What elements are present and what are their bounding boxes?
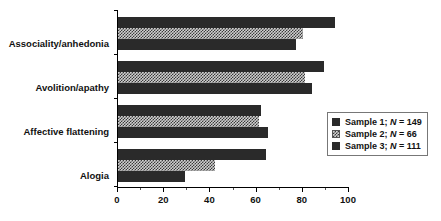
legend-item-2: Sample 3; N = 111 bbox=[332, 140, 422, 152]
x-axis-label-5: 100 bbox=[328, 194, 368, 205]
legend-swatch-series2 bbox=[332, 130, 340, 138]
y-axis-tick bbox=[114, 142, 118, 143]
x-axis-tick bbox=[209, 188, 210, 192]
x-axis-tick bbox=[256, 188, 257, 192]
x-axis-label-1: 20 bbox=[143, 194, 183, 205]
category-label-3: Alogia bbox=[0, 171, 109, 181]
bar-series1-cat2 bbox=[118, 105, 261, 116]
category-label-1: Avolition/apathy bbox=[0, 83, 109, 93]
category-label-2: Affective flattening bbox=[0, 127, 109, 137]
plot-area: 020406080100 bbox=[117, 10, 348, 187]
bar-series1-cat3 bbox=[118, 149, 266, 160]
x-axis-minor-tick bbox=[233, 188, 234, 190]
bar-series2-cat0 bbox=[118, 28, 303, 39]
bar-series3-cat1 bbox=[118, 83, 312, 94]
bar-series3-cat3 bbox=[118, 171, 185, 182]
x-axis-label-0: 0 bbox=[97, 194, 137, 205]
x-axis-tick bbox=[117, 188, 118, 192]
x-axis-tick bbox=[302, 188, 303, 192]
legend-label-series3: Sample 3; N = 111 bbox=[345, 141, 421, 151]
y-axis-tick bbox=[114, 10, 118, 11]
x-axis-minor-tick bbox=[279, 188, 280, 190]
bar-series2-cat2 bbox=[118, 116, 259, 127]
x-axis-label-3: 60 bbox=[236, 194, 276, 205]
category-axis-labels: Associality/anhedonia Avolition/apathy A… bbox=[0, 10, 113, 187]
legend-item-0: Sample 1; N = 149 bbox=[332, 116, 422, 128]
bar-series2-cat1 bbox=[118, 72, 305, 83]
bar-series2-cat3 bbox=[118, 160, 215, 171]
x-axis-minor-tick bbox=[325, 188, 326, 190]
legend-label-series2: Sample 2; N = 66 bbox=[345, 129, 417, 139]
y-axis-tick bbox=[114, 186, 118, 187]
legend-swatch-series3 bbox=[332, 142, 340, 150]
x-axis-tick bbox=[163, 188, 164, 192]
legend-swatch-series1 bbox=[332, 118, 340, 126]
bar-series3-cat0 bbox=[118, 39, 296, 50]
bar-chart: Associality/anhedonia Avolition/apathy A… bbox=[0, 0, 441, 221]
legend: Sample 1; N = 149 Sample 2; N = 66 Sampl… bbox=[327, 112, 428, 156]
x-axis-label-2: 40 bbox=[189, 194, 229, 205]
bar-series1-cat0 bbox=[118, 17, 335, 28]
x-axis-minor-tick bbox=[186, 188, 187, 190]
x-axis-minor-tick bbox=[140, 188, 141, 190]
x-axis-label-4: 80 bbox=[282, 194, 322, 205]
y-axis-tick bbox=[114, 54, 118, 55]
bar-series1-cat1 bbox=[118, 61, 324, 72]
category-label-0: Associality/anhedonia bbox=[0, 39, 109, 49]
y-axis-tick bbox=[114, 98, 118, 99]
x-axis-tick bbox=[348, 188, 349, 192]
legend-label-series1: Sample 1; N = 149 bbox=[345, 117, 422, 127]
legend-item-1: Sample 2; N = 66 bbox=[332, 128, 422, 140]
bar-series3-cat2 bbox=[118, 127, 268, 138]
